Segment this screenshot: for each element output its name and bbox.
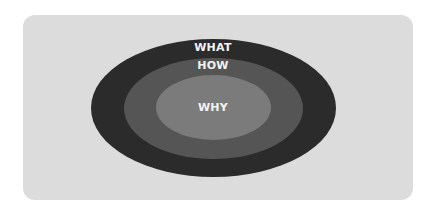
what-label: WHAT	[173, 41, 253, 54]
how-label: HOW	[173, 59, 253, 72]
why-label: WHY	[173, 101, 253, 114]
